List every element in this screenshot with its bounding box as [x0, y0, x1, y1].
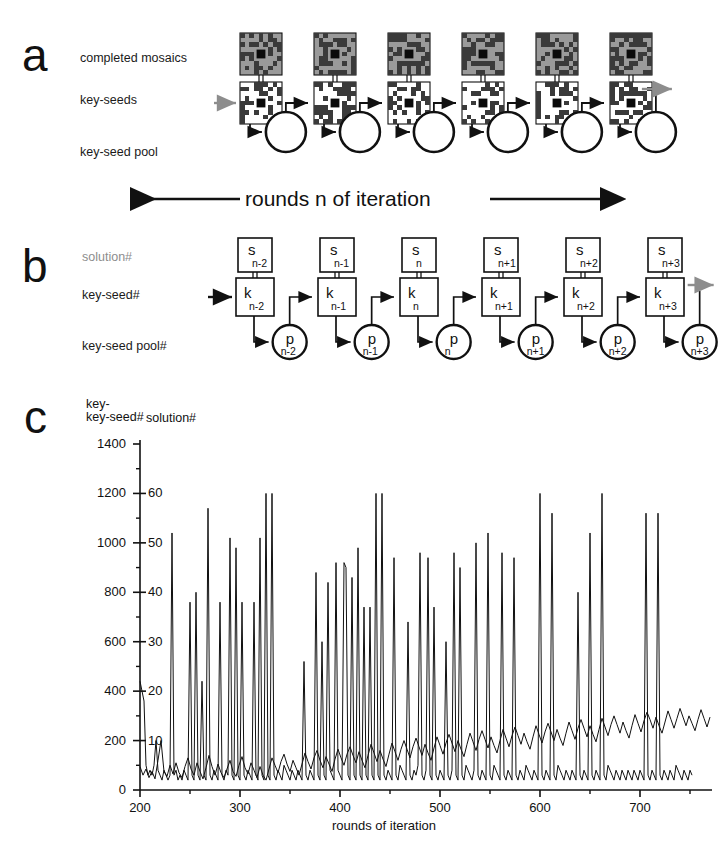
y-axis-title-line2: key-seed#: [86, 410, 144, 424]
x-tick-label: 700: [610, 800, 670, 815]
y2-axis-title: solution#: [146, 411, 196, 425]
keyseed-node-subscript: n+3: [659, 300, 677, 312]
keyseed-node-subscript: n+1: [495, 300, 513, 312]
y-axis-title: key- key-seed#: [86, 398, 144, 424]
series-keyseed: [140, 708, 710, 780]
y2-tick-label: 20: [148, 683, 174, 698]
keyseed-node-letter: k: [244, 284, 252, 301]
y2-tick-label: 60: [148, 485, 174, 500]
figure-root: a b c completed mosaics key-seeds key-se…: [0, 0, 724, 859]
x-axis-title: rounds of iteration: [332, 818, 436, 833]
solution-node-subscript: n+2: [580, 257, 598, 269]
keyseed-node-letter: k: [572, 284, 580, 301]
y-tick-label: 800: [82, 584, 126, 599]
y-tick-label: 200: [82, 733, 126, 748]
pool-node-subscript: n: [445, 345, 451, 357]
y2-tick-label: 30: [148, 634, 174, 649]
rounds-of-iteration-caption: rounds n of iteration: [245, 187, 431, 211]
y2-tick-label: 40: [148, 584, 174, 599]
y-tick-label: 1200: [82, 485, 126, 500]
x-tick-label: 500: [410, 800, 470, 815]
pool-node-subscript: n+3: [691, 345, 709, 357]
solution-node-letter: s: [412, 241, 420, 258]
solution-node-subscript: n-1: [334, 257, 349, 269]
keyseed-node-subscript: n-2: [249, 300, 264, 312]
x-tick-label: 300: [210, 800, 270, 815]
keyseed-node-letter: k: [490, 284, 498, 301]
solution-node-letter: s: [658, 241, 666, 258]
panel-b-diagram: sn-2kn-2pn-2sn-1kn-1pn-1snknpnsn+1kn+1pn…: [0, 230, 724, 370]
solution-node-letter: s: [576, 241, 584, 258]
pool-node-subscript: n-1: [363, 345, 378, 357]
keyseed-node-letter: k: [326, 284, 334, 301]
y-tick-label: 1400: [82, 436, 126, 451]
y-tick-label: 600: [82, 634, 126, 649]
x-tick-label: 400: [310, 800, 370, 815]
keyseed-node-letter: k: [654, 284, 662, 301]
solution-node-subscript: n+3: [662, 257, 680, 269]
solution-node-letter: s: [248, 241, 256, 258]
y2-tick-label: 10: [148, 733, 174, 748]
pool-node-letter: p: [450, 330, 458, 347]
pool-node-subscript: n+2: [609, 345, 627, 357]
keyseed-node-subscript: n+2: [577, 300, 595, 312]
y-tick-label: 400: [82, 683, 126, 698]
y-tick-label: 1000: [82, 535, 126, 550]
solution-node-subscript: n: [416, 257, 422, 269]
solution-node-subscript: n-2: [252, 257, 267, 269]
solution-node-letter: s: [494, 241, 502, 258]
keyseed-node-letter: k: [408, 284, 416, 301]
keyseed-node-subscript: n-1: [331, 300, 346, 312]
y-tick-label: 0: [82, 782, 126, 797]
pool-node-subscript: n+1: [527, 345, 545, 357]
pool-node-subscript: n-2: [281, 345, 296, 357]
keyseed-node-subscript: n: [413, 300, 419, 312]
y2-tick-label: 50: [148, 535, 174, 550]
x-tick-label: 200: [110, 800, 170, 815]
solution-node-letter: s: [330, 241, 338, 258]
y-axis-title-line1: key-: [86, 397, 110, 411]
x-tick-label: 600: [510, 800, 570, 815]
solution-node-subscript: n+1: [498, 257, 516, 269]
